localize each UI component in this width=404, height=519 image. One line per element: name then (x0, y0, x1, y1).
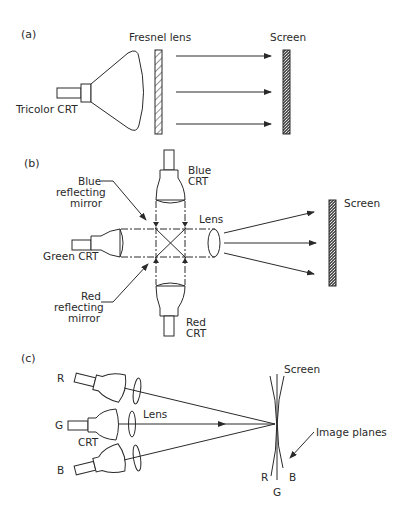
lens-b-label: Lens (199, 213, 223, 225)
arrowhead (153, 222, 159, 227)
ray-arrow (224, 253, 314, 274)
screen-a-icon (283, 50, 290, 134)
screen-c-label: Screen (284, 363, 320, 375)
arrowhead (182, 258, 188, 263)
ray-arrow (224, 212, 314, 233)
fresnel-lens-label: Fresnel lens (129, 31, 191, 43)
arrowhead (182, 222, 188, 227)
blue-mirror-pointer-arrow (101, 181, 146, 220)
red-mirror-label-3: mirror (68, 312, 101, 324)
blue-crt-label-2: CRT (188, 175, 209, 187)
panel-b: (b) Blue CRT Blue reflecting mirror Gree… (24, 150, 380, 339)
plane-b-label: B (289, 471, 296, 483)
image-planes-pointer-arrow (290, 432, 314, 458)
b-crt-label: B (57, 464, 64, 476)
r-crt-label: R (57, 372, 64, 384)
b-ray (124, 424, 275, 460)
r-crt-icon (72, 363, 128, 403)
panel-a: (a) Fresnel lens Screen Tricolor CRT (15, 28, 306, 134)
r-image-plane (270, 376, 277, 476)
b-image-plane (277, 376, 284, 468)
lens-c-label: Lens (143, 408, 167, 420)
lens-b-icon (208, 229, 220, 257)
image-planes-label: Image planes (316, 426, 387, 438)
fresnel-lens-icon (155, 50, 162, 134)
ray-arrowhead (218, 421, 226, 427)
panel-b-label: (b) (24, 157, 40, 170)
red-crt-icon (156, 283, 185, 336)
plane-g-label: G (273, 486, 281, 498)
projection-tv-diagram: (a) Fresnel lens Screen Tricolor CRT (b)… (0, 0, 404, 519)
red-crt-label-2: CRT (186, 327, 207, 339)
tricolor-crt-label: Tricolor CRT (15, 103, 78, 115)
panel-a-label: (a) (21, 28, 36, 41)
panel-c-label: (c) (21, 352, 36, 365)
green-crt-label: Green CRT (43, 250, 99, 262)
tricolor-crt-icon (57, 51, 144, 131)
screen-a-label: Screen (270, 31, 306, 43)
blue-crt-icon (156, 150, 185, 203)
arrowhead (153, 258, 159, 263)
screen-b-label: Screen (344, 197, 380, 209)
g-crt-label: G (55, 419, 63, 431)
panel-c: (c) R G CRT Lens B Scre (21, 352, 387, 498)
b-crt-icon (71, 443, 127, 483)
plane-r-label: R (261, 471, 268, 483)
crt-c-label: CRT (78, 436, 99, 448)
blue-mirror-label-3: mirror (70, 197, 103, 209)
red-mirror-pointer-arrow (101, 264, 148, 302)
screen-b-icon (329, 200, 336, 286)
